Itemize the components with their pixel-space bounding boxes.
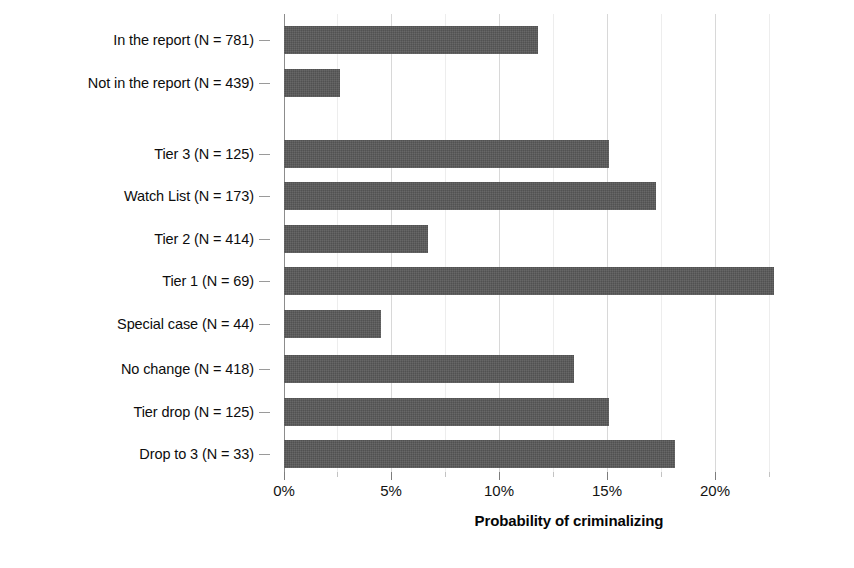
x-axis-ticks <box>284 472 854 482</box>
x-axis-title: Probability of criminalizing <box>284 512 854 529</box>
xtick-17.5 <box>661 472 662 477</box>
bar-special-case <box>284 310 381 338</box>
bar-tier-3 <box>284 140 609 168</box>
category-label: In the report (N = 781) <box>113 30 254 50</box>
bar-tier-drop <box>284 398 609 426</box>
category-label: Not in the report (N = 439) <box>88 73 254 93</box>
category-label: No change (N = 418) <box>121 359 254 379</box>
category-label: Special case (N = 44) <box>117 314 254 334</box>
xtick-15 <box>607 472 608 480</box>
category-tick <box>259 412 270 413</box>
xtick-12.5 <box>553 472 554 477</box>
xtick-2.5 <box>337 472 338 477</box>
category-label: Tier drop (N = 125) <box>134 402 254 422</box>
gridline-major-20 <box>715 14 716 472</box>
xtick-label-0: 0% <box>273 482 295 499</box>
gridline-minor-22.5 <box>769 14 770 472</box>
xtick-label-5: 5% <box>380 482 402 499</box>
xtick-0 <box>284 472 285 480</box>
category-tick <box>259 239 270 240</box>
xtick-5 <box>391 472 392 480</box>
bar-drop-to-3 <box>284 440 675 468</box>
bar-tier-1 <box>284 267 774 295</box>
xtick-10 <box>499 472 500 480</box>
xtick-label-10: 10% <box>484 482 514 499</box>
category-tick <box>259 281 270 282</box>
page-bleed-artifact <box>0 552 854 568</box>
plot-area <box>284 14 854 472</box>
bar-chart-figure: In the report (N = 781) Not in the repor… <box>0 0 854 568</box>
xtick-label-15: 15% <box>592 482 622 499</box>
bar-not-in-the-report <box>284 69 340 97</box>
bar-tier-2 <box>284 225 428 253</box>
category-label: Tier 3 (N = 125) <box>154 144 254 164</box>
category-tick <box>259 196 270 197</box>
xtick-label-20: 20% <box>700 482 730 499</box>
category-label: Tier 1 (N = 69) <box>162 271 254 291</box>
category-tick <box>259 454 270 455</box>
xtick-20 <box>715 472 716 480</box>
category-tick <box>259 154 270 155</box>
category-label: Watch List (N = 173) <box>124 186 254 206</box>
bar-no-change <box>284 355 574 383</box>
xtick-7.5 <box>445 472 446 477</box>
category-tick <box>259 83 270 84</box>
xtick-22.5 <box>769 472 770 477</box>
bar-in-the-report <box>284 26 538 54</box>
category-label: Drop to 3 (N = 33) <box>139 444 254 464</box>
bar-watch-list <box>284 182 656 210</box>
category-label: Tier 2 (N = 414) <box>154 229 254 249</box>
gridline-minor-17.5 <box>661 14 662 472</box>
category-tick <box>259 40 270 41</box>
category-axis-labels: In the report (N = 781) Not in the repor… <box>0 0 270 478</box>
category-tick <box>259 324 270 325</box>
category-tick <box>259 369 270 370</box>
